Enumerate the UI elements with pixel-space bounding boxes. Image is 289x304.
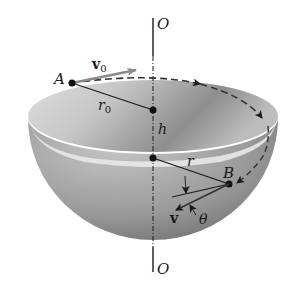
initial-velocity-label: v0 [92, 57, 107, 74]
angle-theta-label: θ [199, 212, 207, 226]
initial-velocity-subscript: 0 [100, 63, 106, 74]
point-a-label: A [54, 72, 65, 87]
initial-velocity-symbol: v [92, 56, 100, 72]
axis-top-label: O [157, 17, 169, 32]
velocity-label: v [170, 211, 178, 225]
axis-bottom-label: O [157, 262, 169, 277]
initial-radius-label: r0 [98, 98, 111, 115]
hemispherical-bowl-diagram: O O A v0 r0 h r B v θ [0, 0, 289, 304]
point-b-label: B [223, 166, 234, 181]
center-dot-top [150, 107, 157, 114]
initial-radius-symbol: r [98, 97, 105, 113]
height-label: h [158, 122, 167, 136]
initial-radius-subscript: 0 [105, 104, 111, 115]
diagram-graphics [0, 0, 289, 304]
radius-label: r [187, 154, 194, 168]
point-a-dot [69, 80, 76, 87]
